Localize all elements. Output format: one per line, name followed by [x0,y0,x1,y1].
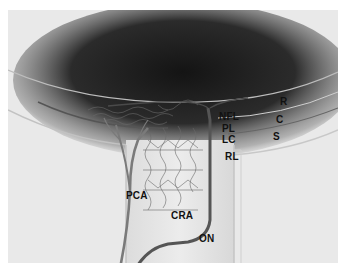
illustration-panel: R C S NFL PL LC RL PCA CRA ON [8,10,338,263]
label-sclera: S [273,132,280,142]
label-choroid: C [276,115,283,125]
label-nerve-fiber-layer: NFL [219,112,239,122]
optic-nerve [126,140,234,263]
vitreous-cavity [13,10,338,158]
label-prelaminar: PL [222,124,235,134]
label-posterior-ciliary-artery: PCA [126,191,148,201]
label-retrolaminar: RL [225,152,239,162]
optic-nerve-illustration [8,10,338,263]
label-optic-nerve: ON [199,234,214,244]
label-lamina-cribrosa: LC [222,135,236,145]
label-central-retinal-artery: CRA [171,211,193,221]
label-retina: R [280,97,287,107]
